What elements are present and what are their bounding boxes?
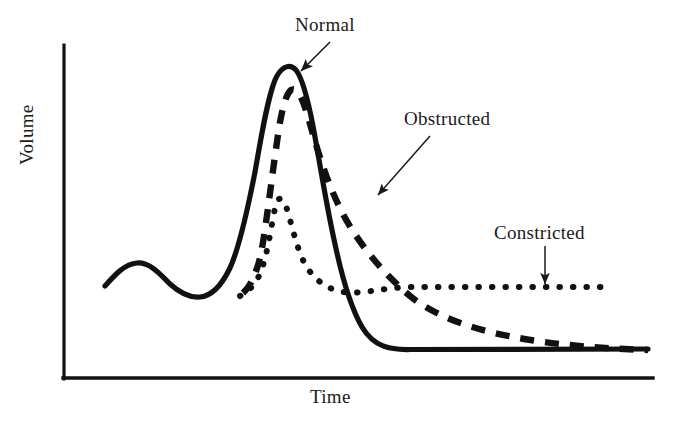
series-line-constricted <box>240 199 608 296</box>
axis-lines <box>63 45 653 379</box>
series-line-normal <box>105 66 648 349</box>
x-axis-label: Time <box>310 386 351 408</box>
figure-root: Volume Time Normal Obstructed Constricte… <box>0 0 678 442</box>
series-label-constricted: Constricted <box>494 222 585 244</box>
y-axis-label: Volume <box>16 104 38 165</box>
series-label-obstructed: Obstructed <box>404 108 490 130</box>
chart-canvas <box>0 0 678 442</box>
series-label-normal: Normal <box>295 14 355 36</box>
annotation-arrow-normal <box>301 42 330 71</box>
annotation-arrow-obstructed <box>378 136 430 195</box>
